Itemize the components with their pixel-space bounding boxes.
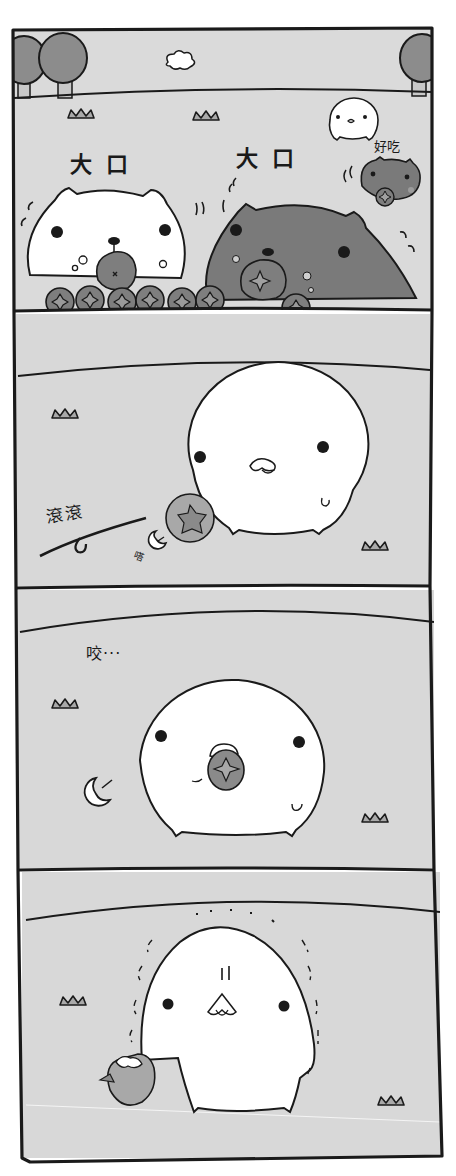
panel-1 xyxy=(2,30,444,322)
chick-biting xyxy=(140,680,324,836)
chick-rolling xyxy=(188,362,368,534)
grass-icon xyxy=(60,996,86,1005)
persimmon-rolling xyxy=(166,494,214,542)
panel-3 xyxy=(18,590,434,870)
panel-4 xyxy=(22,872,440,1158)
grass-icon xyxy=(193,111,219,120)
grass-icon xyxy=(68,109,94,118)
grass-icon xyxy=(362,541,388,550)
grass-icon xyxy=(52,409,78,418)
comic-artwork xyxy=(0,0,456,1176)
grass-icon xyxy=(362,813,388,822)
grass-icon xyxy=(378,1096,404,1105)
small-chick xyxy=(330,98,379,140)
comic-strip: 大口 大口 好吃 滾滾 嗒 咬··· xyxy=(0,0,456,1176)
panel-2 xyxy=(16,314,430,588)
grass-icon xyxy=(52,699,78,708)
